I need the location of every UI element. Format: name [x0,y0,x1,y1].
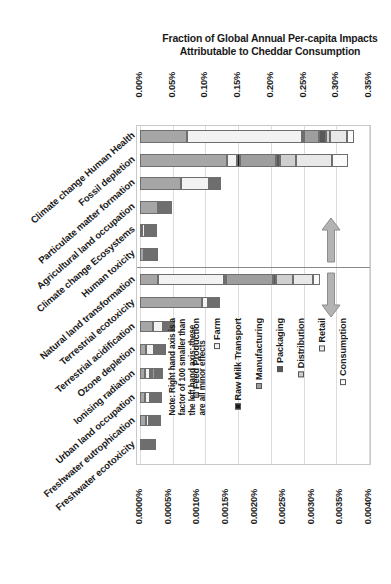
bar-row [140,248,158,261]
bar-segment [140,154,227,167]
bottom-axis-tick-8: 0.0040% [363,489,373,524]
bar-segment [276,274,293,285]
up-arrow-icon [320,216,342,264]
bar-segment [218,297,220,308]
legend-label: Consumption [338,318,348,376]
bar-segment [293,274,314,285]
legend-item[interactable]: Manufacturing [254,318,264,389]
top-axis-tick-0: 0.00% [134,72,144,97]
down-arrow-icon [320,271,342,319]
legend-swatch [340,379,346,385]
bar-row [140,224,157,237]
axis-divider-line [137,267,370,268]
gridline [369,126,370,464]
legend-swatch [235,403,241,409]
bar-segment [156,248,158,261]
top-axis-tick-4: 0.20% [265,72,275,97]
bar-segment [140,177,181,190]
bar-segment [140,274,158,285]
chart-note: Note: Right hand axis is a factor of 100… [168,318,208,416]
legend-item[interactable]: Packaging [275,318,285,372]
bar-row [140,154,348,167]
legend-label: Farm [212,318,222,340]
legend-swatch [256,383,262,389]
top-axis-tick-5: 0.25% [298,72,308,97]
bar-segment [140,201,158,214]
chart-title: Fraction of Global Annual Per-capita Imp… [152,32,388,58]
bar-segment [332,154,348,167]
chart-title-line1: Fraction of Global Annual Per-capita Imp… [152,32,388,45]
bar-segment [227,154,237,167]
bottom-axis-tick-6: 0.0030% [306,489,316,524]
bar-segment [187,130,302,143]
bar-row [140,368,163,379]
chart-title-line2: Attributable to Cheddar Consumption [152,45,388,58]
top-axis-tick-2: 0.10% [199,72,209,97]
bottom-axis-tick-2: 0.0010% [191,489,201,524]
bar-segment [319,130,327,143]
bar-segment [304,130,318,143]
bar-row [140,392,162,403]
bottom-axis-tick-4: 0.0020% [249,489,259,524]
legend-item[interactable]: Distribution [296,318,306,377]
legend-label: Packaging [275,318,285,363]
legend: ConsumptionRetailDistributionPackagingMa… [162,318,362,458]
bar-row [140,415,161,426]
bottom-axis-tick-0: 0.0000% [134,489,144,524]
legend-item[interactable]: Retail [317,318,327,351]
top-axis-tick-7: 0.35% [363,72,373,97]
bar-row [140,130,354,143]
bar-segment [330,130,346,143]
bar-segment [140,297,202,308]
bar-row [140,439,156,450]
bar-segment [170,201,172,214]
bar-row [140,201,172,214]
legend-item[interactable]: Raw Milk Transport [233,318,243,409]
legend-swatch [214,343,220,349]
bottom-axis-tick-5: 0.0025% [277,489,287,524]
legend-label: Retail [317,318,327,342]
bar-segment [240,154,276,167]
bar-segment [226,274,273,285]
bar-segment [181,177,209,190]
chart-root: Fraction of Global Annual Per-capita Imp… [0,0,391,584]
bar-segment [155,224,157,237]
bar-segment [140,321,153,332]
legend-item[interactable]: Consumption [338,318,348,385]
bottom-axis-tick-7: 0.0035% [334,489,344,524]
bar-row [140,177,221,190]
bar-segment [146,344,154,355]
bar-segment [347,130,354,143]
bar-row [140,274,320,285]
legend-label: Manufacturing [254,318,264,380]
legend-swatch [277,366,283,372]
legend-label: Raw Milk Transport [233,318,243,400]
bottom-axis-tick-1: 0.0005% [163,489,173,524]
legend-swatch [298,371,304,377]
bar-segment [219,177,221,190]
bar-segment [296,154,332,167]
legend-item[interactable]: Farm [212,318,222,349]
bottom-axis-tick-3: 0.0015% [220,489,230,524]
bar-segment [159,415,161,426]
top-axis-tick-3: 0.15% [232,72,242,97]
legend-swatch [319,345,325,351]
top-axis-tick-6: 0.30% [330,72,340,97]
bar-segment [140,130,187,143]
bar-segment [154,439,156,450]
bar-segment [280,154,296,167]
bar-row [140,297,220,308]
bar-segment [158,274,223,285]
top-axis-tick-1: 0.05% [167,72,177,97]
legend-label: Distribution [296,318,306,368]
